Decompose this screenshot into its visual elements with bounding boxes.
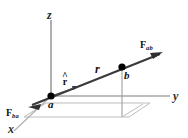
point-a-label: a bbox=[48, 99, 54, 110]
force-ab-label: Fab bbox=[140, 40, 153, 51]
diagram-canvas bbox=[0, 0, 188, 138]
force-ba-subscript: ba bbox=[12, 112, 19, 119]
unit-vector-label: ^ r bbox=[62, 74, 68, 87]
r-hat-arrow-tip bbox=[72, 86, 80, 90]
base-plane-outline bbox=[24, 103, 150, 117]
unit-vector-base-letter: r bbox=[62, 77, 68, 87]
separation-vector-label: r bbox=[95, 63, 100, 75]
force-ab-subscript: ab bbox=[146, 44, 153, 51]
point-b-label: b bbox=[124, 70, 130, 81]
base-plane bbox=[24, 103, 150, 117]
x-axis-label: x bbox=[8, 123, 14, 135]
physics-diagram: z y x a b r ^ r Fab Fba bbox=[0, 0, 188, 138]
z-axis-label: z bbox=[47, 9, 52, 21]
force-ba-label: Fba bbox=[6, 108, 19, 119]
x-axis bbox=[14, 96, 51, 131]
y-axis-label: y bbox=[173, 90, 178, 102]
r-hat-vector bbox=[54, 86, 80, 95]
x-axis-line bbox=[14, 96, 51, 131]
